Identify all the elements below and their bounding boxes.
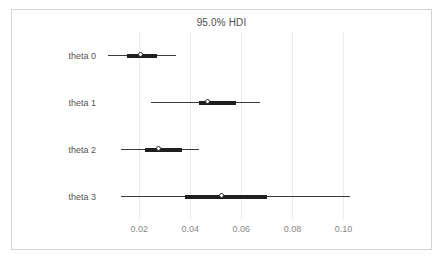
row-label-theta-2: theta 2 xyxy=(68,145,105,155)
interquartile-range-bar xyxy=(185,195,267,199)
row-label-theta-1: theta 1 xyxy=(68,98,105,108)
x-axis-tick-label: 0.08 xyxy=(284,224,302,234)
x-axis-tick-label: 0.04 xyxy=(181,224,199,234)
plot-axes-area: 0.020.040.060.080.10theta 0theta 1theta … xyxy=(105,32,368,220)
page-title: 95.0% HDI xyxy=(0,17,443,28)
point-estimate-marker xyxy=(156,146,161,151)
x-axis-tick-label: 0.06 xyxy=(233,224,251,234)
hdi-forest-plot-figure: 95.0% HDI 0.020.040.060.080.10theta 0the… xyxy=(0,0,443,260)
point-estimate-marker xyxy=(138,52,143,57)
row-label-theta-0: theta 0 xyxy=(68,51,105,61)
x-axis-tick-label: 0.10 xyxy=(335,224,353,234)
x-axis-tick-label: 0.02 xyxy=(130,224,148,234)
interquartile-range-bar xyxy=(145,148,182,152)
gridline xyxy=(190,32,191,220)
gridline xyxy=(292,32,293,220)
row-label-theta-3: theta 3 xyxy=(68,192,105,202)
gridline xyxy=(343,32,344,220)
gridline xyxy=(241,32,242,220)
gridline xyxy=(139,32,140,220)
